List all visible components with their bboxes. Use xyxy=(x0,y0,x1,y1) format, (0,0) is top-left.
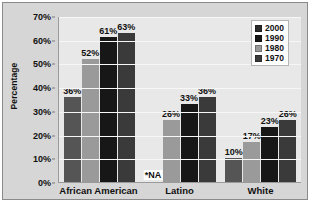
y-axis-tick-label: 30% xyxy=(33,107,51,117)
bar[interactable]: 26% xyxy=(279,120,296,182)
bar-slot: 36% xyxy=(199,17,216,182)
legend-item[interactable]: 1970 xyxy=(255,53,284,63)
na-annotation: *NA xyxy=(144,170,163,180)
y-axis-tick-mark xyxy=(52,183,55,184)
bar[interactable]: 61% xyxy=(100,37,117,182)
y-axis-tick-label: 0% xyxy=(38,178,51,188)
bar-value-label: 63% xyxy=(117,23,135,32)
bar-group: *NA26%33%36% xyxy=(140,17,221,182)
bar-slot: 10% xyxy=(225,17,242,182)
y-axis-tick-label: 20% xyxy=(33,131,51,141)
legend-item[interactable]: 2000 xyxy=(255,23,284,33)
gridline xyxy=(59,112,301,113)
bar-value-label: 61% xyxy=(99,27,117,36)
y-axis-tick-mark xyxy=(52,17,55,18)
y-axis-title: Percentage xyxy=(9,51,19,121)
legend-swatch-icon xyxy=(255,55,262,62)
bar-slot: 61% xyxy=(100,17,117,182)
y-axis-ticks: 70%60%50%40%30%20%10%0% xyxy=(21,17,55,183)
x-axis-label: White xyxy=(220,185,301,196)
y-axis-tick-mark xyxy=(52,64,55,65)
y-axis-tick-mark xyxy=(52,135,55,136)
bar-value-label: 23% xyxy=(261,117,279,126)
gridline xyxy=(59,136,301,137)
bar-group: 36%52%61%63% xyxy=(59,17,140,182)
bar-slot: 63% xyxy=(118,17,135,182)
y-axis-tick-mark xyxy=(52,88,55,89)
legend-item[interactable]: 1980 xyxy=(255,43,284,53)
bar-value-label: 33% xyxy=(180,94,198,103)
y-axis-tick-label: 70% xyxy=(33,12,51,22)
x-axis-label: Latino xyxy=(139,185,220,196)
bar-value-label: 52% xyxy=(81,49,99,58)
bar-chart: Percentage 70%60%50%40%30%20%10%0% 36%52… xyxy=(0,0,312,205)
chart-legend: 2000199019801970 xyxy=(251,20,289,66)
bar-slot: *NA xyxy=(145,17,162,182)
legend-swatch-icon xyxy=(255,45,262,52)
bar[interactable]: 36% xyxy=(64,97,81,182)
bar-slot: 33% xyxy=(181,17,198,182)
legend-swatch-icon xyxy=(255,35,262,42)
bar[interactable]: 17% xyxy=(243,142,260,182)
x-axis-labels: African AmericanLatinoWhite xyxy=(58,185,301,196)
gridline xyxy=(59,159,301,160)
y-axis-tick-mark xyxy=(52,111,55,112)
gridline xyxy=(59,17,301,18)
bar-slot: 26% xyxy=(163,17,180,182)
bar-slot: 52% xyxy=(82,17,99,182)
legend-item[interactable]: 1990 xyxy=(255,33,284,43)
bar[interactable]: 52% xyxy=(82,59,99,182)
bar-value-label: 10% xyxy=(225,148,243,157)
gridline xyxy=(59,88,301,89)
bar[interactable]: 26% xyxy=(163,120,180,182)
y-axis-tick-label: 60% xyxy=(33,36,51,46)
bar[interactable]: 36% xyxy=(199,97,216,182)
y-axis-tick-mark xyxy=(52,159,55,160)
legend-label: 1990 xyxy=(265,34,284,43)
y-axis-tick-label: 50% xyxy=(33,59,51,69)
bar[interactable]: 33% xyxy=(181,104,198,182)
legend-swatch-icon xyxy=(255,25,262,32)
bar[interactable]: 10% xyxy=(225,158,242,182)
y-axis-tick-label: 40% xyxy=(33,83,51,93)
y-axis-tick-mark xyxy=(52,40,55,41)
legend-label: 1970 xyxy=(265,54,284,63)
x-axis-label: African American xyxy=(58,185,139,196)
bar-slot: 36% xyxy=(64,17,81,182)
chart-panel: Percentage 70%60%50%40%30%20%10%0% 36%52… xyxy=(2,2,308,200)
y-axis-tick-label: 10% xyxy=(33,154,51,164)
legend-label: 2000 xyxy=(265,24,284,33)
legend-label: 1980 xyxy=(265,44,284,53)
